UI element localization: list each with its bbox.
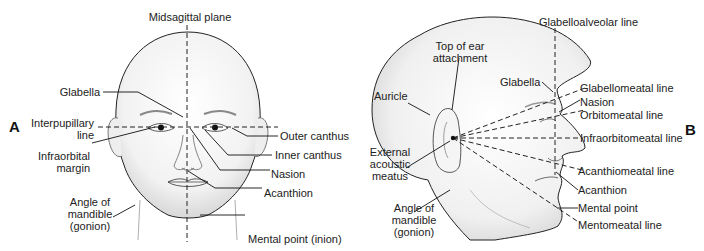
label-interpupillary-line-2: line (18, 129, 94, 141)
label-infraorbitomeatal-line: Infraorbitomeatal line (580, 132, 683, 144)
label-glabelloalveolar-line: Glabelloalveolar line (539, 16, 638, 28)
label-glabella-b: Glabella (500, 76, 540, 88)
label-acanthiomeatal-line: Acanthiomeatal line (578, 165, 674, 177)
external-acoustic-meatus-point (451, 136, 455, 140)
label-top-of-ear-2: attachment (425, 52, 495, 64)
label-interpupillary-line-1: Interpupillary (18, 117, 94, 129)
label-infraorbital-margin-1: Infraorbital (18, 150, 90, 162)
frontal-head-drawing (108, 32, 268, 240)
label-midsagittal-plane: Midsagittal plane (140, 11, 240, 23)
label-external-acoustic-meatus-3: meatus (360, 170, 420, 182)
label-infraorbital-margin-2: margin (18, 162, 90, 174)
label-orbitomeatal-line: Orbitomeatal line (580, 109, 663, 121)
label-angle-of-mandible-b-3: (gonion) (384, 226, 444, 238)
label-outer-canthus: Outer canthus (280, 130, 349, 142)
label-nasion-b: Nasion (580, 96, 614, 108)
label-inner-canthus: Inner canthus (275, 149, 342, 161)
label-angle-of-mandible-a-3: (gonion) (60, 220, 120, 232)
label-glabella-a: Glabella (40, 86, 100, 98)
anatomy-figure: A B Midsagittal plane Glabella Interpupi… (0, 0, 704, 251)
label-angle-of-mandible-a-2: mandible (60, 208, 120, 220)
label-acanthion-a: Acanthion (264, 187, 313, 199)
label-glabellomeatal-line: Glabellomeatal line (580, 82, 674, 94)
panel-label-b: B (685, 121, 696, 138)
label-angle-of-mandible-b-1: Angle of (384, 202, 444, 214)
label-mentomeatal-line: Mentomeatal line (578, 219, 662, 231)
label-mental-point-b: Mental point (578, 202, 638, 214)
label-angle-of-mandible-b-2: mandible (384, 214, 444, 226)
label-external-acoustic-meatus-1: External (360, 146, 420, 158)
label-angle-of-mandible-a-1: Angle of (60, 196, 120, 208)
label-external-acoustic-meatus-2: acoustic (360, 158, 420, 170)
label-mental-point-inion: Mental point (inion) (248, 233, 342, 245)
label-nasion-a: Nasion (271, 168, 305, 180)
label-top-of-ear-1: Top of ear (425, 40, 495, 52)
label-auricle: Auricle (374, 90, 408, 102)
label-acanthion-b: Acanthion (578, 184, 627, 196)
